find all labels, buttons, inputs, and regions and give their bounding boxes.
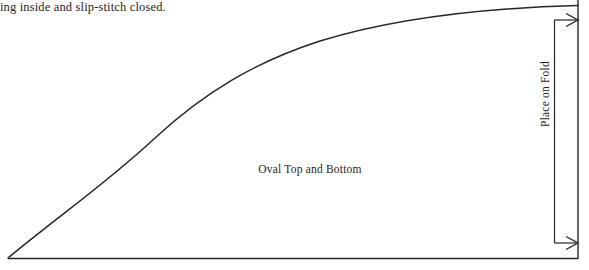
quarter-oval-cutting-line bbox=[8, 6, 578, 259]
pattern-drawing bbox=[0, 0, 589, 270]
place-on-fold-label: Place on Fold bbox=[539, 54, 551, 134]
pattern-page: ing inside and slip-stitch closed. Oval … bbox=[0, 0, 589, 270]
pattern-piece-label: Oval Top and Bottom bbox=[240, 163, 380, 175]
